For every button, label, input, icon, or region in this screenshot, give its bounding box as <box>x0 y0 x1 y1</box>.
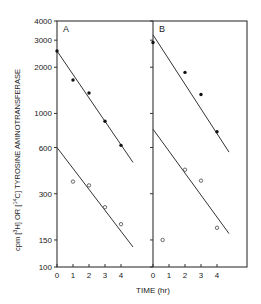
y-tick-label: 4000 <box>34 17 52 26</box>
x-tick-label: 2 <box>87 271 92 280</box>
panel-label: A <box>63 24 69 34</box>
x-tick-label: 4 <box>119 271 124 280</box>
x-tick-label: 2 <box>183 271 188 280</box>
data-point-open <box>199 179 202 182</box>
plot-series: AB <box>55 24 229 247</box>
data-point-filled <box>103 120 106 123</box>
data-point-open <box>161 238 164 241</box>
data-point-filled <box>55 49 58 52</box>
data-point-open <box>87 184 90 187</box>
data-point-filled <box>183 71 186 74</box>
data-point-open <box>119 222 122 225</box>
data-point-open <box>103 206 106 209</box>
data-point-open <box>215 226 218 229</box>
data-point-open <box>183 168 186 171</box>
x-axis-ticks: 0123401234 <box>55 264 220 280</box>
panel-label: B <box>159 24 165 34</box>
data-point-open <box>71 180 74 183</box>
x-tick-label: 1 <box>167 271 172 280</box>
data-point-filled <box>119 144 122 147</box>
y-tick-label: 300 <box>39 190 53 199</box>
x-tick-label: 0 <box>55 271 60 280</box>
x-tick-label: 3 <box>103 271 108 280</box>
x-axis-label: TIME (hr) <box>136 286 170 295</box>
panel-a: A <box>55 24 133 247</box>
y-tick-label: 1000 <box>34 109 52 118</box>
fit-line <box>153 35 229 152</box>
y-tick-label: 2000 <box>34 63 52 72</box>
y-axis-label: cpm [3H] OR [14C] TYROSINE AMINOTRANSFER… <box>12 69 22 251</box>
chart: 4000300020001000600300150100 0123401234 … <box>0 0 261 304</box>
y-tick-label: 600 <box>39 144 53 153</box>
data-point-filled <box>87 91 90 94</box>
x-tick-label: 4 <box>215 271 220 280</box>
data-point-filled <box>199 93 202 96</box>
data-point-filled <box>215 130 218 133</box>
data-point-filled <box>151 41 154 44</box>
y-tick-label: 100 <box>39 263 53 272</box>
fit-line <box>153 129 229 233</box>
axes-frame <box>57 21 247 267</box>
x-tick-label: 0 <box>151 271 156 280</box>
x-tick-label: 1 <box>71 271 76 280</box>
panel-b: B <box>151 24 229 242</box>
fit-line <box>57 148 133 247</box>
y-axis-ticks: 4000300020001000600300150100 <box>34 17 153 272</box>
x-tick-label: 3 <box>199 271 204 280</box>
y-tick-label: 3000 <box>34 36 52 45</box>
data-point-filled <box>71 78 74 81</box>
plot-frame <box>57 21 247 267</box>
y-tick-label: 150 <box>39 236 53 245</box>
